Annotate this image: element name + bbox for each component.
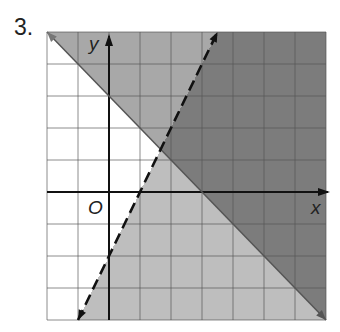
x-axis-label: x [310, 197, 322, 218]
y-axis-label: y [87, 33, 100, 54]
inequality-graph: yxO [0, 0, 340, 332]
origin-label: O [88, 197, 103, 218]
